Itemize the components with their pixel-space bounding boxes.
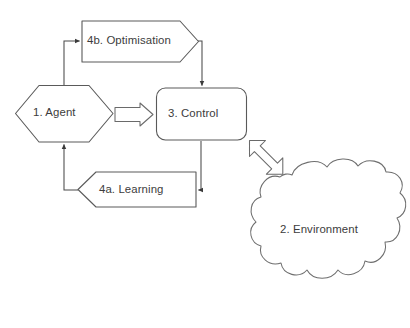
diagram-svg: [0, 0, 410, 328]
node-label-learning: 4a. Learning: [99, 184, 164, 195]
node-label-environment: 2. Environment: [280, 224, 358, 235]
connector-learning-to-agent: [64, 145, 78, 191]
connector-optimisation-to-control: [197, 41, 202, 86]
node-shape-environment[interactable]: [251, 159, 406, 278]
block-arrow-control-to-environment[interactable]: [250, 141, 283, 175]
diagram-canvas: 1. Agent 2. Environment 3. Control 4a. L…: [0, 0, 410, 328]
block-arrow-agent-to-control[interactable]: [115, 103, 153, 126]
connector-agent-to-optimisation: [64, 41, 80, 86]
node-label-agent: 1. Agent: [33, 107, 76, 118]
node-label-optimisation: 4b. Optimisation: [87, 35, 171, 46]
connector-control-to-learning: [199, 141, 202, 190]
node-label-control: 3. Control: [168, 108, 218, 119]
